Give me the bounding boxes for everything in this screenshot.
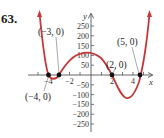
- y-tick-neg100: −100: [72, 91, 89, 100]
- polynomial-graph: 250 200 150 100 50 −50 −100 −150 −200 −2…: [0, 0, 164, 138]
- y-tick-250: 250: [77, 22, 89, 31]
- y-tick-150: 150: [77, 42, 89, 51]
- point-label-neg4: (−4, 0): [25, 92, 51, 103]
- leader-5: [132, 47, 139, 74]
- x-tick-neg2: −2: [65, 77, 74, 86]
- y-axis-label: y: [82, 11, 87, 21]
- y-tick-200: 200: [77, 32, 89, 41]
- x-axis-label: x: [148, 77, 153, 87]
- point-5: [138, 73, 143, 78]
- y-tick-neg150: −150: [72, 100, 89, 109]
- curve-arrow-left-icon: [37, 10, 42, 17]
- point-label-2: (2, 0): [106, 60, 127, 71]
- y-tick-neg50: −50: [76, 81, 89, 90]
- point-neg4: [46, 73, 51, 78]
- leader-neg3: [56, 37, 59, 74]
- point-label-neg3: (−3, 0): [38, 27, 64, 38]
- y-tick-neg250: −250: [72, 120, 89, 129]
- x-tick-4: 4: [131, 77, 135, 86]
- y-tick-50: 50: [81, 61, 89, 70]
- point-neg3: [57, 73, 62, 78]
- y-tick-neg200: −200: [72, 110, 89, 119]
- point-2: [110, 73, 115, 78]
- curve-arrow-right-icon: [147, 10, 152, 17]
- point-label-5: (5, 0): [117, 37, 138, 48]
